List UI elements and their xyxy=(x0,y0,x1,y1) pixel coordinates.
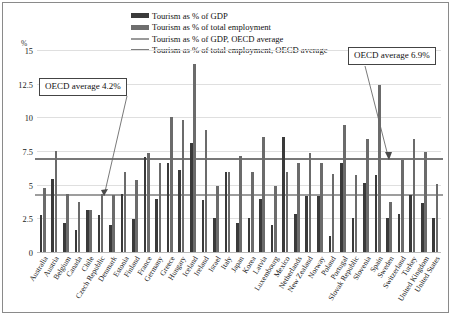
y-axis-tick-label: 2.5 xyxy=(23,215,33,224)
legend-label-employment-bar: Tourism as % of total employment xyxy=(152,22,271,32)
bar-group[interactable] xyxy=(372,51,384,253)
bar-employment[interactable] xyxy=(355,175,358,253)
bar-group[interactable] xyxy=(418,51,430,253)
bar-group[interactable] xyxy=(303,51,315,253)
bar-group[interactable] xyxy=(129,51,141,253)
bar-group[interactable] xyxy=(291,51,303,253)
bar-employment[interactable] xyxy=(193,64,196,253)
bar-group[interactable] xyxy=(314,51,326,253)
y-axis-tick-label: 7.5 xyxy=(23,148,33,157)
bar-employment[interactable] xyxy=(135,180,138,253)
bar-group[interactable] xyxy=(360,51,372,253)
x-axis-baseline xyxy=(37,252,441,253)
x-axis-labels: AustraliaAustriaBelgiumCanadaChileCzech … xyxy=(37,255,441,317)
bar-group[interactable] xyxy=(210,51,222,253)
bar-employment[interactable] xyxy=(182,120,185,253)
bar-employment[interactable] xyxy=(55,151,58,253)
bar-group[interactable] xyxy=(199,51,211,253)
bar-group[interactable] xyxy=(349,51,361,253)
bar-group[interactable] xyxy=(430,51,442,253)
y-axis-tick-label: 10 xyxy=(25,114,33,123)
bar-group[interactable] xyxy=(164,51,176,253)
bar-group[interactable] xyxy=(141,51,153,253)
bar-employment[interactable] xyxy=(147,153,150,253)
chart-frame: Tourism as % of GDP Tourism as % of tota… xyxy=(2,2,449,313)
legend-item-employment-bar: Tourism as % of total employment xyxy=(131,22,381,34)
bar-employment[interactable] xyxy=(205,130,208,253)
bar-employment[interactable] xyxy=(159,163,162,253)
bar-employment[interactable] xyxy=(320,163,323,253)
bar-group[interactable] xyxy=(383,51,395,253)
legend-label-gdp-average-line: Tourism as % of GDP, OECD average xyxy=(152,34,283,44)
bar-employment[interactable] xyxy=(401,160,404,253)
legend-label-gdp-bar: Tourism as % of GDP xyxy=(152,11,228,21)
y-axis-tick-label: 0 xyxy=(29,249,33,258)
y-axis-tick-label: 5 xyxy=(29,181,33,190)
bar-employment[interactable] xyxy=(262,137,265,253)
bar-employment[interactable] xyxy=(251,172,254,253)
bar-employment[interactable] xyxy=(89,210,92,253)
bar-employment[interactable] xyxy=(389,202,392,253)
bar-employment[interactable] xyxy=(286,172,289,253)
bar-group[interactable] xyxy=(176,51,188,253)
bar-employment[interactable] xyxy=(170,117,173,253)
bar-employment[interactable] xyxy=(297,163,300,253)
legend-item-gdp-average-line: Tourism as % of GDP, OECD average xyxy=(131,33,381,45)
y-axis-tick-label: 12.5 xyxy=(18,80,33,89)
y-axis-tick-label: 15 xyxy=(25,47,33,56)
bar-group[interactable] xyxy=(187,51,199,253)
bar-employment[interactable] xyxy=(43,188,46,253)
bar-group[interactable] xyxy=(326,51,338,253)
bar-employment[interactable] xyxy=(413,139,416,253)
bar-employment[interactable] xyxy=(66,194,69,253)
bar-employment[interactable] xyxy=(424,152,427,253)
legend-swatch-employment-bar xyxy=(131,25,149,30)
legend-swatch-gdp-average-line xyxy=(131,38,149,40)
bar-group[interactable] xyxy=(245,51,257,253)
bar-group[interactable] xyxy=(407,51,419,253)
legend-item-gdp-bar: Tourism as % of GDP xyxy=(131,10,381,22)
bar-employment[interactable] xyxy=(274,186,277,253)
bar-employment[interactable] xyxy=(216,186,219,253)
legend-swatch-gdp-bar xyxy=(131,13,149,18)
bar-group[interactable] xyxy=(279,51,291,253)
bar-employment[interactable] xyxy=(124,172,127,253)
bar-employment[interactable] xyxy=(332,174,335,253)
callout-gdp-average: OECD average 4.2% xyxy=(39,78,127,96)
bar-employment[interactable] xyxy=(436,184,439,253)
bar-employment[interactable] xyxy=(309,153,312,253)
bar-employment[interactable] xyxy=(239,156,242,253)
bar-group[interactable] xyxy=(268,51,280,253)
bar-employment[interactable] xyxy=(112,195,115,253)
bar-employment[interactable] xyxy=(101,194,104,253)
bar-group[interactable] xyxy=(233,51,245,253)
bar-employment[interactable] xyxy=(378,85,381,253)
bar-employment[interactable] xyxy=(343,125,346,253)
bar-group[interactable] xyxy=(337,51,349,253)
bar-employment[interactable] xyxy=(78,202,81,253)
bar-group[interactable] xyxy=(222,51,234,253)
bar-group[interactable] xyxy=(256,51,268,253)
bar-employment[interactable] xyxy=(366,139,369,253)
bar-group[interactable] xyxy=(152,51,164,253)
bar-group[interactable] xyxy=(395,51,407,253)
bar-employment[interactable] xyxy=(228,172,231,253)
callout-employment-average: OECD average 6.9% xyxy=(348,47,436,65)
